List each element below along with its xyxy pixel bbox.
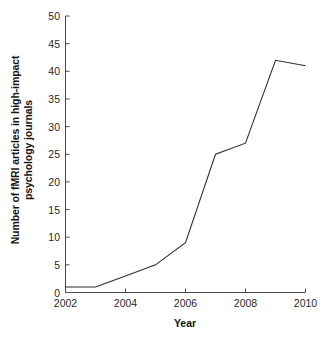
fmri-articles-line-chart: Number of fMRI articles in high-impact p…	[0, 0, 328, 340]
x-axis-title: Year	[65, 317, 305, 329]
plot-area	[0, 0, 328, 340]
axes	[66, 16, 306, 293]
x-axis-tick-marks	[66, 289, 306, 293]
y-axis-tick-marks	[66, 16, 70, 293]
data-series-line	[66, 60, 306, 287]
